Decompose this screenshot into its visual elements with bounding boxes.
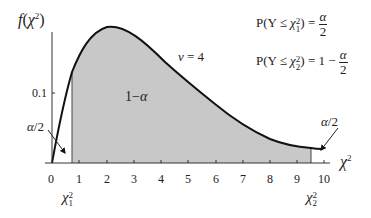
x-tick-label-10: 10 — [318, 172, 330, 187]
x-tick-label-2: 2 — [104, 172, 110, 187]
eq1-numerator: α — [319, 10, 328, 25]
equation-upper-tail: P(Y ≤ χ22) = 1 − α2 — [256, 48, 348, 77]
x-label-sup: 2 — [347, 153, 352, 163]
equation-lower-tail: P(Y ≤ χ21) = α2 — [256, 10, 327, 39]
right-tail-arrow — [321, 128, 338, 150]
eq2-numerator: α — [339, 48, 348, 63]
nu-value: = 4 — [184, 49, 204, 64]
eq2-denominator: 2 — [339, 63, 348, 77]
x-tick-label-6: 6 — [213, 172, 219, 187]
left-tail-alpha: α — [27, 119, 34, 134]
eq1-prefix: P(Y ≤ — [256, 15, 290, 30]
x-axis-label: χ2 — [340, 154, 352, 170]
eq1-denominator: 2 — [319, 25, 328, 39]
x-tick-label-1: 1 — [76, 172, 82, 187]
x-tick-label-5: 5 — [185, 172, 191, 187]
center-one-minus: 1− — [125, 89, 140, 104]
chi1-critical-label: χ21 — [62, 190, 73, 207]
eq1-suffix: ) = — [300, 15, 318, 30]
x-tick-label-3: 3 — [131, 172, 137, 187]
x-tick-label-7: 7 — [240, 172, 246, 187]
chi2-chi: χ — [306, 189, 313, 205]
eq2-suffix: ) = 1 − — [300, 53, 339, 68]
right-tail-half: /2 — [328, 114, 338, 129]
left-tail-label: α/2 — [27, 120, 44, 133]
right-tail-alpha: α — [321, 114, 328, 129]
eq2-prefix: P(Y ≤ — [256, 53, 290, 68]
center-area-label: 1−α — [125, 90, 147, 104]
right-tail-label: α/2 — [321, 115, 338, 128]
eq1-fraction: α2 — [319, 10, 328, 39]
x-tick-label-0: 0 — [48, 172, 54, 187]
y-tick-label-0-1: 0.1 — [32, 87, 47, 99]
y-label-chi: χ — [28, 11, 35, 28]
chi1-sub: 1 — [69, 199, 74, 207]
chi1-chi: χ — [62, 189, 69, 205]
x-tick-label-4: 4 — [158, 172, 164, 187]
eq2-fraction: α2 — [339, 48, 348, 77]
chi2-sub: 2 — [313, 199, 318, 207]
x-tick-label-8: 8 — [267, 172, 273, 187]
y-axis-label: f(χ2) — [18, 12, 45, 28]
x-label-chi: χ — [340, 153, 347, 170]
x-tick-label-9: 9 — [294, 172, 300, 187]
left-tail-half: /2 — [34, 119, 44, 134]
chi2-critical-label: χ22 — [306, 190, 317, 207]
y-label-paren-close: ) — [39, 11, 44, 28]
degrees-of-freedom-label: ν = 4 — [178, 50, 204, 63]
center-alpha: α — [140, 89, 147, 104]
left-tail-arrow — [48, 130, 65, 153]
